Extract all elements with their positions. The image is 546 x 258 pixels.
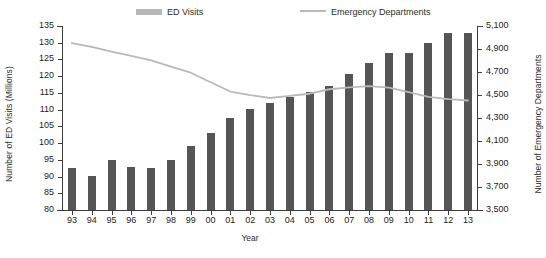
legend-item-emergency-departments: Emergency Departments [300,7,431,17]
y-tick-label-right: 3,500 [486,205,528,214]
x-tick-label: 07 [339,216,359,225]
y-tick-label-left: 120 [14,71,54,80]
x-tick-label: 04 [280,216,300,225]
x-tick-label: 95 [102,216,122,225]
chart-legend: ED Visits Emergency Departments [136,6,466,22]
x-tick-label: 09 [379,216,399,225]
x-tick-label: 01 [220,216,240,225]
x-tick-label: 93 [62,216,82,225]
y-tick-right [478,141,482,142]
legend-label-emergency-departments: Emergency Departments [331,7,431,17]
y-tick-label-left: 85 [14,188,54,197]
y-tick-label-left: 105 [14,121,54,130]
x-tick-label: 10 [399,216,419,225]
x-tick-label: 05 [300,216,320,225]
plot-area: 13513012512011511010510095908580 5,1004,… [62,26,478,210]
line-series-emergency-departments [62,26,478,210]
y-tick-label-right: 4,100 [486,136,528,145]
y-tick-label-left: 90 [14,172,54,181]
legend-item-ed-visits: ED Visits [136,7,203,17]
chart-figure: ED Visits Emergency Departments Number o… [0,0,546,258]
y-tick-label-left: 130 [14,38,54,47]
y-tick-label-right: 5,100 [486,21,528,30]
x-tick-label: 02 [240,216,260,225]
x-tick-label: 00 [201,216,221,225]
x-tick-label: 11 [418,216,438,225]
legend-swatch-bar-icon [136,9,162,15]
y-tick-label-left: 135 [14,21,54,30]
y-tick-right [478,210,482,211]
y-tick-right [478,187,482,188]
y-tick-label-right: 3,900 [486,159,528,168]
y-tick-right [478,95,482,96]
x-tick-label: 12 [438,216,458,225]
legend-swatch-line-icon [300,10,326,12]
y-tick-label-right: 4,700 [486,67,528,76]
y-tick-label-left: 125 [14,54,54,63]
y-tick-label-right: 4,300 [486,113,528,122]
line-path-svg [62,26,478,210]
y-tick-label-left: 100 [14,138,54,147]
y-tick-label-left: 95 [14,155,54,164]
y-tick-label-left: 115 [14,88,54,97]
x-tick-label: 96 [121,216,141,225]
y-tick-right [478,72,482,73]
y-tick-label-left: 110 [14,105,54,114]
y-axis-left-title: Number of ED Visits (Millions) [4,44,14,204]
x-tick-label: 03 [260,216,280,225]
x-tick-label: 99 [181,216,201,225]
x-axis-title: Year [0,233,500,243]
y-tick-right [478,164,482,165]
x-tick-label: 94 [82,216,102,225]
x-tick-label: 06 [319,216,339,225]
y-tick-right [478,26,482,27]
x-tick-label: 97 [141,216,161,225]
y-tick-label-right: 4,500 [486,90,528,99]
y-tick-right [478,118,482,119]
y-tick-label-right: 3,700 [486,182,528,191]
x-tick-label: 08 [359,216,379,225]
x-tick-label: 98 [161,216,181,225]
line-path [72,43,468,100]
y-axis-right-title: Number of Emergency Departments [533,44,543,204]
y-tick-right [478,49,482,50]
legend-label-ed-visits: ED Visits [167,7,203,17]
y-tick-label-left: 80 [14,205,54,214]
y-tick-left [58,210,62,211]
x-tick-label: 13 [458,216,478,225]
y-tick-label-right: 4,900 [486,44,528,53]
